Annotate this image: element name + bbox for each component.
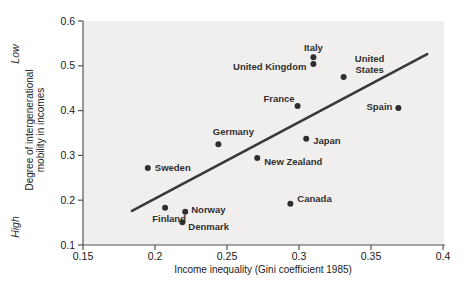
data-point-label-norway: Norway bbox=[191, 204, 226, 215]
y-axis-tick-label: 0.3 bbox=[60, 149, 75, 161]
data-point-label-new-zealand: New Zealand bbox=[264, 156, 322, 167]
y-axis-tick-label: 0.5 bbox=[60, 59, 75, 71]
y-axis-high-annotation: High bbox=[9, 216, 21, 238]
plot-area-background bbox=[83, 21, 444, 245]
y-axis-tick-label: 0.2 bbox=[60, 194, 75, 206]
data-point-new-zealand bbox=[254, 155, 260, 161]
data-point-label-japan: Japan bbox=[313, 135, 341, 146]
y-axis-title-line1: Degree of intergenerational bbox=[24, 69, 35, 190]
y-axis-tick-label: 0.4 bbox=[60, 104, 75, 116]
y-axis-tick-label: 0.6 bbox=[60, 15, 75, 27]
x-axis-tick-label: 0.3 bbox=[292, 250, 307, 262]
data-point-norway bbox=[182, 209, 188, 215]
x-axis-tick-label: 0.15 bbox=[73, 250, 94, 262]
data-point-label-denmark: Denmark bbox=[188, 221, 229, 232]
x-axis-title: Income inequality (Gini coefficient 1985… bbox=[174, 264, 352, 275]
data-point-label-sweden: Sweden bbox=[155, 162, 191, 173]
data-point-united-kingdom bbox=[310, 61, 316, 67]
mobility-vs-inequality-scatter-chart: 0.150.20.250.30.350.40.10.20.30.40.50.6 … bbox=[0, 0, 474, 289]
y-axis-tick-label: 0.1 bbox=[60, 239, 75, 251]
data-point-label-germany: Germany bbox=[213, 126, 255, 137]
x-axis-tick-label: 0.25 bbox=[217, 250, 238, 262]
data-point-spain bbox=[395, 105, 401, 111]
data-point-italy bbox=[310, 54, 316, 60]
data-point-finland bbox=[162, 205, 168, 211]
x-axis-tick-label: 0.35 bbox=[361, 250, 382, 262]
data-point-label-france: France bbox=[263, 93, 294, 104]
y-axis-low-annotation: Low bbox=[9, 43, 21, 64]
x-axis-tick-label: 0.4 bbox=[436, 250, 451, 262]
data-point-japan bbox=[303, 136, 309, 142]
data-point-germany bbox=[215, 141, 221, 147]
data-point-denmark bbox=[179, 219, 185, 225]
data-point-label-united-states: UnitedStates bbox=[355, 53, 385, 75]
data-point-label-spain: Spain bbox=[366, 101, 392, 112]
data-point-label-canada: Canada bbox=[297, 193, 332, 204]
data-point-label-united-kingdom: United Kingdom bbox=[233, 61, 306, 72]
data-point-france bbox=[295, 103, 301, 109]
data-point-united-states bbox=[341, 74, 347, 80]
chart-figure: 0.150.20.250.30.350.40.10.20.30.40.50.6 … bbox=[0, 0, 474, 289]
data-point-sweden bbox=[145, 165, 151, 171]
data-point-canada bbox=[287, 201, 293, 207]
x-axis-tick-label: 0.2 bbox=[148, 250, 163, 262]
y-axis-title-line2: mobility in incomes bbox=[35, 88, 46, 172]
data-point-label-italy: Italy bbox=[304, 42, 324, 53]
